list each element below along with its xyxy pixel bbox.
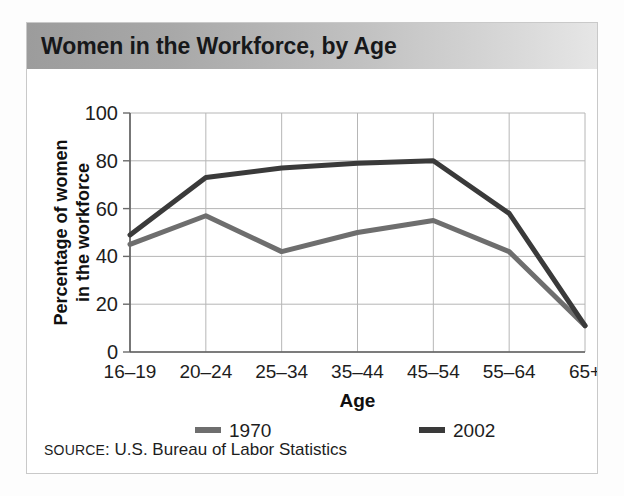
ytick-label-100: 100 (85, 102, 118, 124)
xtick-label-2: 25–34 (255, 361, 308, 382)
y-axis-title-line1: Percentage of women (51, 139, 71, 325)
legend-label-2002: 2002 (453, 420, 495, 441)
xtick-label-4: 45–54 (407, 361, 460, 382)
xtick-label-0: 16–19 (104, 361, 157, 382)
plot-area: 02040608010016–1920–2425–3435–4445–5455–… (27, 69, 597, 473)
y-axis-title-line2: in the workforce (73, 163, 93, 302)
ytick-label-20: 20 (96, 293, 118, 315)
line-chart: 02040608010016–1920–2425–3435–4445–5455–… (27, 69, 597, 473)
source-note: SOURCE: U.S. Bureau of Labor Statistics (44, 440, 347, 460)
source-prefix: SOURCE (44, 442, 105, 458)
xtick-label-1: 20–24 (179, 361, 232, 382)
xtick-label-5: 55–64 (483, 361, 536, 382)
x-axis-title: Age (340, 390, 376, 411)
source-separator: : (105, 440, 114, 459)
title-banner: Women in the Workforce, by Age (27, 23, 597, 69)
ytick-label-0: 0 (107, 341, 118, 363)
figure-canvas: Women in the Workforce, by Age 020406080… (0, 0, 624, 496)
page-title: Women in the Workforce, by Age (41, 33, 397, 60)
ytick-label-40: 40 (96, 245, 118, 267)
xtick-label-3: 35–44 (331, 361, 384, 382)
source-text: U.S. Bureau of Labor Statistics (115, 440, 347, 459)
legend-label-1970: 1970 (229, 420, 271, 441)
ytick-label-80: 80 (96, 150, 118, 172)
xtick-label-6: 65+ (569, 361, 597, 382)
ytick-label-60: 60 (96, 198, 118, 220)
